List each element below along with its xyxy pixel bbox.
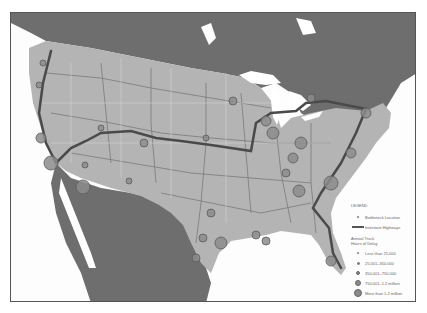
delay-class-1-icon — [357, 252, 359, 254]
delay-class-2-icon — [357, 262, 360, 265]
legend: LEGEND Bottleneck Location Interstate Hi… — [351, 203, 416, 298]
legend-class-row: Less than 25,000 — [351, 248, 416, 258]
legend-highway-row: Interstate Highways — [351, 222, 416, 232]
delay-class-5-icon — [354, 289, 362, 297]
legend-class-row: 750,001–1.2 million — [351, 278, 416, 288]
legend-delay-title: Annual Truck Hours of Delay — [351, 236, 416, 246]
legend-class-row: 350,001–750,000 — [351, 268, 416, 278]
legend-bottleneck-row: Bottleneck Location — [351, 212, 416, 222]
highway-line-icon — [352, 226, 364, 228]
legend-bottleneck-label: Bottleneck Location — [365, 215, 400, 220]
bottleneck-dot-icon — [357, 216, 359, 218]
legend-highway-label: Interstate Highways — [365, 225, 400, 230]
legend-class-row: 25,001–350,000 — [351, 258, 416, 268]
delay-class-3-icon — [356, 271, 360, 275]
delay-class-4-icon — [355, 280, 361, 286]
legend-class-row: More than 1.2 million — [351, 288, 416, 298]
map-frame: LEGEND Bottleneck Location Interstate Hi… — [10, 12, 416, 302]
legend-title: LEGEND — [351, 203, 416, 208]
